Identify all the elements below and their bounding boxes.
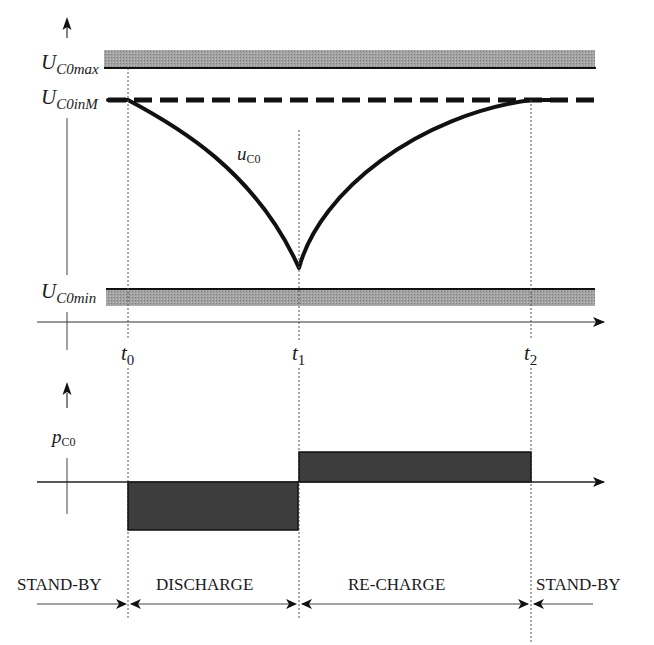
phase-recharge: RE-CHARGE (348, 575, 445, 594)
recharge-pulse (299, 452, 531, 482)
phase-labels: STAND-BY DISCHARGE RE-CHARGE STAND-BY (17, 575, 621, 594)
uc0-curve (108, 100, 565, 268)
t2-label: t2 (524, 341, 537, 368)
lower-plot: pC0 (37, 382, 604, 530)
time-markers (128, 68, 531, 642)
phase-standby-2: STAND-BY (536, 575, 621, 594)
uc0min-band (106, 289, 595, 306)
t0-label: t0 (121, 341, 134, 368)
uc0inm-label: UC0inM (41, 85, 99, 112)
phase-arrows (37, 599, 593, 609)
uc0min-label: UC0min (41, 279, 96, 306)
t1-label: t1 (292, 341, 305, 368)
upper-plot: UC0max UC0inM UC0min uC0 t0 t1 t2 (37, 17, 604, 368)
uc0max-label: UC0max (41, 50, 99, 77)
phase-standby-1: STAND-BY (17, 575, 102, 594)
uc0-curve-label: uC0 (237, 143, 261, 166)
phase-discharge: DISCHARGE (156, 575, 253, 594)
timing-diagram: UC0max UC0inM UC0min uC0 t0 t1 t2 pC0 ST… (0, 0, 654, 645)
uc0max-band (104, 50, 596, 68)
discharge-pulse (128, 482, 298, 530)
pc0-label: pC0 (50, 426, 76, 449)
